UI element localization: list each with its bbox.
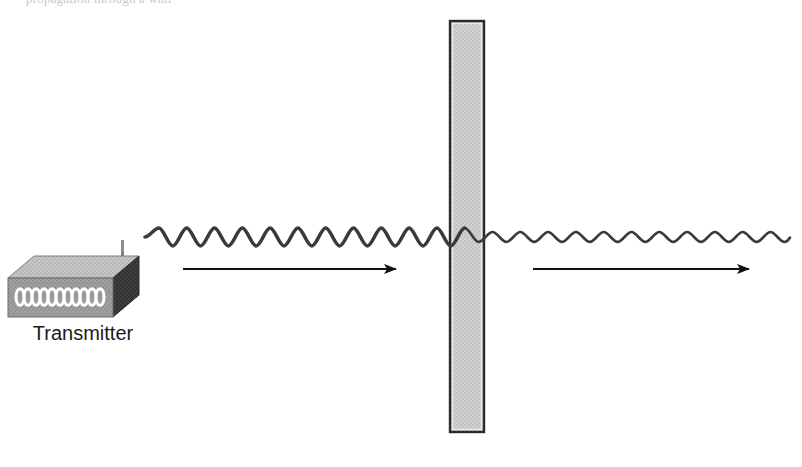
transmitter-label: Transmitter xyxy=(8,321,158,345)
wall-body xyxy=(450,21,484,432)
diagram-vector-layer xyxy=(0,0,802,467)
diagram-canvas: propagation through a wall xyxy=(0,0,802,467)
transmitter[interactable] xyxy=(8,240,139,317)
incident-wave xyxy=(145,228,465,246)
transmitted-wave xyxy=(465,228,790,242)
wall xyxy=(450,21,484,432)
